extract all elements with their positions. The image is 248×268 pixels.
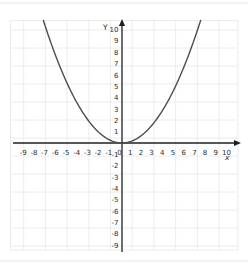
y-axis-arrow-icon xyxy=(119,19,125,26)
y-tick-label: 6 xyxy=(114,72,119,80)
y-tick-label: -1 xyxy=(112,151,119,159)
y-tick-label: -7 xyxy=(112,219,119,227)
x-tick-label: 3 xyxy=(149,149,153,157)
x-tick-label: 9 xyxy=(214,149,218,157)
y-tick-label: -2 xyxy=(112,162,119,170)
grid-lines xyxy=(11,21,239,251)
x-tick-label: 5 xyxy=(171,149,175,157)
x-tick-label: -6 xyxy=(52,149,60,157)
y-tick-label: 8 xyxy=(114,49,118,57)
x-tick-label: 2 xyxy=(139,149,143,157)
x-tick-label: -8 xyxy=(30,149,37,157)
x-tick-label: 4 xyxy=(160,149,165,157)
x-axis-arrow-icon xyxy=(234,140,241,146)
page-background-lines xyxy=(0,3,248,261)
y-tick-label: 1 xyxy=(114,128,118,136)
x-axis-title: x xyxy=(225,154,229,162)
x-tick-label: -7 xyxy=(41,149,48,157)
x-tick-label: -5 xyxy=(63,149,70,157)
y-tick-label: 5 xyxy=(114,83,118,91)
y-tick-label: -8 xyxy=(112,230,119,238)
y-tick-label: -5 xyxy=(112,196,119,204)
x-tick-label: -4 xyxy=(73,149,81,157)
x-tick-label: -3 xyxy=(84,149,91,157)
y-tick-label: 10 xyxy=(110,26,119,34)
axes xyxy=(13,19,241,252)
y-axis-title: Y xyxy=(103,24,108,32)
y-tick-label: 7 xyxy=(114,60,118,68)
y-tick-label: -3 xyxy=(112,174,119,182)
x-tick-label: -2 xyxy=(95,149,102,157)
y-tick-label: -4 xyxy=(112,185,120,193)
x-tick-label: -9 xyxy=(20,149,27,157)
graph-canvas: -9-8-7-6-5-4-3-2-10123456789101098765432… xyxy=(0,0,248,268)
y-tick-label: 4 xyxy=(114,94,119,102)
y-tick-label: 9 xyxy=(114,37,118,45)
x-tick-label: 8 xyxy=(203,149,207,157)
y-tick-label: -6 xyxy=(112,208,120,216)
y-tick-label: -9 xyxy=(112,242,119,250)
y-tick-label: 2 xyxy=(114,117,118,125)
y-tick-label: 3 xyxy=(114,106,118,114)
x-tick-label: 7 xyxy=(192,149,196,157)
x-tick-label: 6 xyxy=(181,149,186,157)
x-tick-label: 1 xyxy=(128,149,132,157)
parabola-graph-svg: -9-8-7-6-5-4-3-2-10123456789101098765432… xyxy=(0,0,248,268)
